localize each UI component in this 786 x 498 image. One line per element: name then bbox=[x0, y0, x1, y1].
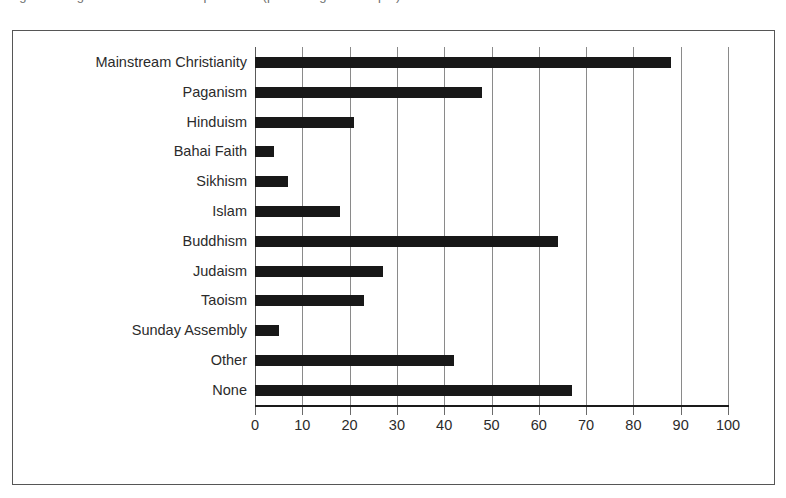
tick-label-10: 10 bbox=[294, 417, 310, 433]
category-label-taoism: Taoism bbox=[201, 291, 247, 309]
category-label-other: Other bbox=[211, 351, 247, 369]
tick-60 bbox=[539, 407, 540, 415]
bar-row bbox=[255, 48, 728, 78]
bar-row bbox=[255, 316, 728, 346]
cropped-caption-fragment: Figure: Religious affiliation of respond… bbox=[0, 0, 786, 11]
category-label-sunday-assembly: Sunday Assembly bbox=[132, 321, 247, 339]
tick-label-80: 80 bbox=[625, 417, 641, 433]
bar-buddhism bbox=[255, 236, 558, 247]
bar-islam bbox=[255, 206, 340, 217]
bar-other bbox=[255, 355, 454, 366]
plot-area bbox=[255, 47, 728, 405]
category-label-islam: Islam bbox=[212, 202, 247, 220]
bar-row bbox=[255, 286, 728, 316]
tick-90 bbox=[681, 407, 682, 415]
bar-mainstream-christianity bbox=[255, 57, 671, 68]
tick-label-30: 30 bbox=[389, 417, 405, 433]
caption-text: Figure: Religious affiliation of respond… bbox=[8, 0, 401, 3]
category-label-hinduism: Hinduism bbox=[187, 113, 247, 131]
tick-50 bbox=[492, 407, 493, 415]
bar-row bbox=[255, 78, 728, 108]
tick-80 bbox=[633, 407, 634, 415]
bar-paganism bbox=[255, 87, 482, 98]
tick-label-70: 70 bbox=[578, 417, 594, 433]
bar-row bbox=[255, 346, 728, 376]
bar-row bbox=[255, 376, 728, 406]
bar-row bbox=[255, 167, 728, 197]
bar-bahai-faith bbox=[255, 146, 274, 157]
tick-70 bbox=[586, 407, 587, 415]
tick-label-0: 0 bbox=[251, 417, 259, 433]
category-label-bahai-faith: Bahai Faith bbox=[174, 142, 247, 160]
bar-row bbox=[255, 197, 728, 227]
category-label-paganism: Paganism bbox=[183, 83, 247, 101]
tick-label-100: 100 bbox=[716, 417, 740, 433]
bar-row bbox=[255, 227, 728, 257]
bar-judaism bbox=[255, 266, 383, 277]
bar-row bbox=[255, 108, 728, 138]
category-label-judaism: Judaism bbox=[193, 262, 247, 280]
bar-sunday-assembly bbox=[255, 325, 279, 336]
tick-30 bbox=[397, 407, 398, 415]
tick-label-50: 50 bbox=[483, 417, 499, 433]
tick-100 bbox=[728, 407, 729, 415]
category-label-sikhism: Sikhism bbox=[196, 172, 247, 190]
bar-taoism bbox=[255, 295, 364, 306]
tick-0 bbox=[255, 407, 256, 415]
bar-sikhism bbox=[255, 176, 288, 187]
category-label-none: None bbox=[212, 381, 247, 399]
tick-10 bbox=[302, 407, 303, 415]
chart-figure-frame: Mainstream ChristianityPaganismHinduismB… bbox=[12, 30, 775, 485]
category-label-buddhism: Buddhism bbox=[183, 232, 247, 250]
bar-none bbox=[255, 385, 572, 396]
tick-label-60: 60 bbox=[531, 417, 547, 433]
bar-row bbox=[255, 137, 728, 167]
tick-label-40: 40 bbox=[436, 417, 452, 433]
tick-20 bbox=[350, 407, 351, 415]
bar-hinduism bbox=[255, 117, 354, 128]
tick-label-90: 90 bbox=[673, 417, 689, 433]
tick-label-20: 20 bbox=[342, 417, 358, 433]
tick-40 bbox=[444, 407, 445, 415]
gridline-100 bbox=[728, 47, 729, 405]
bar-row bbox=[255, 257, 728, 287]
category-label-mainstream-christianity: Mainstream Christianity bbox=[96, 53, 248, 71]
